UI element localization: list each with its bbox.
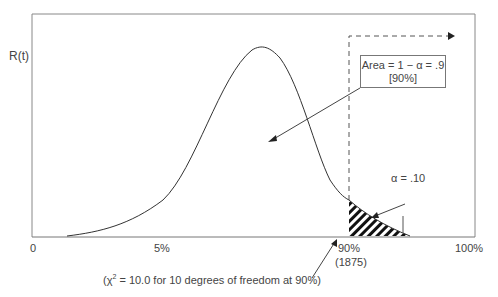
area-label-line2: [90%] bbox=[361, 72, 445, 85]
x-tick-5: 5% bbox=[154, 242, 170, 254]
x-tick-90-sublabel: (1875) bbox=[335, 256, 367, 268]
arrowhead-icon bbox=[371, 212, 379, 218]
density-curve bbox=[67, 47, 410, 236]
arrowhead-icon bbox=[448, 32, 455, 40]
area-annotation-box: Area = 1 − α = .9 [90%] bbox=[360, 55, 446, 88]
chart-canvas bbox=[0, 0, 498, 297]
arrowhead-icon bbox=[331, 239, 337, 247]
x-tick-0: 0 bbox=[30, 242, 36, 254]
y-axis-label: R(t) bbox=[9, 49, 29, 63]
x-tick-90: 90% bbox=[338, 242, 360, 254]
chi-suffix: = 10.0 for 10 degrees of freedom at 90%) bbox=[116, 274, 321, 286]
alpha-label: α = .10 bbox=[391, 172, 425, 184]
chi-square-annotation: (χ2 = 10.0 for 10 degrees of freedom at … bbox=[103, 273, 321, 286]
arrowhead-icon bbox=[268, 135, 277, 142]
area-label-line1: Area = 1 − α = .9 bbox=[361, 59, 445, 72]
plot-frame bbox=[32, 14, 475, 237]
area-pointer-arrow bbox=[272, 88, 360, 140]
alpha-pointer-arrow bbox=[375, 204, 405, 216]
x-tick-100: 100% bbox=[455, 242, 483, 254]
